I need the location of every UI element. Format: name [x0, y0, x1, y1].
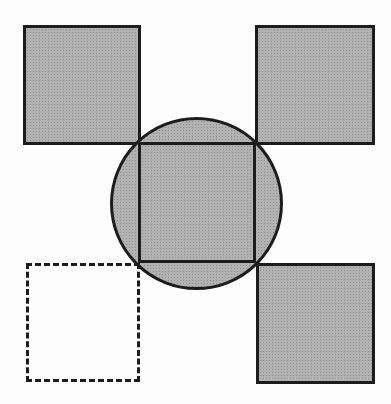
square-top-right — [255, 25, 375, 145]
square-top-left — [23, 25, 141, 145]
square-center — [138, 142, 256, 263]
square-bottom-right — [256, 263, 375, 384]
figure-canvas — [0, 0, 391, 404]
square-bottom-left — [26, 263, 140, 382]
